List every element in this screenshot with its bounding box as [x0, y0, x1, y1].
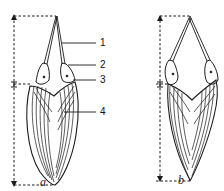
panel-b-caption: b [178, 173, 184, 188]
panel-b-drawing [156, 15, 218, 182]
muscle-fibers-b [170, 82, 215, 176]
label-3: 3 [100, 75, 106, 85]
panel-a-drawing [11, 14, 96, 187]
label-2: 2 [100, 60, 106, 70]
label-4: 4 [100, 107, 106, 117]
panel-a-caption: a [40, 175, 46, 190]
aponeurosis-left-b [165, 60, 178, 85]
muscle-fibers [32, 84, 75, 182]
aponeurosis-left [36, 63, 49, 84]
tendon-b [170, 16, 210, 61]
tendon [44, 16, 65, 64]
panel-b-dimension-lines [156, 16, 190, 181]
aponeurosis-right [61, 63, 75, 83]
label-1: 1 [100, 38, 106, 48]
diagram-figure [0, 0, 224, 191]
